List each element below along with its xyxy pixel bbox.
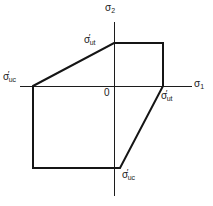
failure-envelope-figure: σ2 σ1 σ′ut σ′uc σ′ut σ′uc 0	[0, 0, 213, 206]
failure-envelope-canvas	[0, 0, 213, 206]
failure-envelope-polygon	[33, 43, 163, 168]
sigma-ut-right-label: σ′ut	[161, 89, 172, 102]
sigma-ut-top-label: σ′ut	[84, 33, 95, 46]
sigma-uc-left-label: σ′uc	[3, 70, 16, 83]
sigma-1-axis-label: σ1	[194, 79, 204, 90]
sigma-2-axis-label: σ2	[105, 3, 115, 14]
sigma-uc-bottom-label: σ′uc	[122, 168, 135, 181]
origin-label: 0	[104, 88, 110, 98]
